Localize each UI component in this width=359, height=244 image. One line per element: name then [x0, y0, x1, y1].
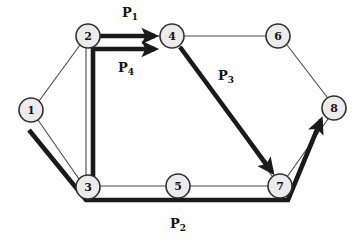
node-4-label: 4 [168, 30, 176, 43]
path-label-p1-sub: 1 [132, 12, 138, 22]
diagram-canvas: 1 2 3 4 5 6 [0, 0, 359, 244]
path-label-p1-base: P [122, 5, 132, 20]
node-7-label: 7 [276, 180, 284, 193]
path-label-p4: P4 [118, 60, 134, 77]
edge-1-2 [39, 45, 80, 101]
graph-svg: 1 2 3 4 5 6 [0, 0, 359, 244]
path-label-p3: P3 [218, 68, 234, 85]
node-6-label: 6 [274, 30, 282, 43]
node-1[interactable]: 1 [19, 98, 43, 122]
node-3[interactable]: 3 [76, 175, 100, 199]
node-8-label: 8 [330, 102, 338, 115]
node-4[interactable]: 4 [160, 24, 184, 48]
node-8[interactable]: 8 [322, 96, 346, 120]
node-2[interactable]: 2 [76, 24, 100, 48]
node-2-label: 2 [84, 30, 92, 43]
node-1-label: 1 [27, 104, 35, 117]
path-label-p2: P2 [170, 216, 186, 233]
thin-edges-layer [38, 36, 328, 186]
path-label-p2-base: P [170, 216, 180, 231]
node-3-label: 3 [84, 181, 92, 194]
edge-6-8 [287, 45, 327, 97]
path-label-p3-sub: 3 [228, 75, 234, 85]
path-p3-segment [180, 47, 272, 172]
path-label-p3-base: P [218, 68, 228, 83]
node-6[interactable]: 6 [266, 24, 290, 48]
node-5-label: 5 [174, 180, 182, 193]
path-label-p2-sub: 2 [180, 223, 186, 233]
path-label-p1: P1 [122, 5, 138, 22]
path-p3 [180, 47, 272, 172]
node-7[interactable]: 7 [268, 174, 292, 198]
path-label-p4-base: P [118, 60, 128, 75]
node-5[interactable]: 5 [166, 174, 190, 198]
path-label-p4-sub: 4 [128, 67, 134, 77]
